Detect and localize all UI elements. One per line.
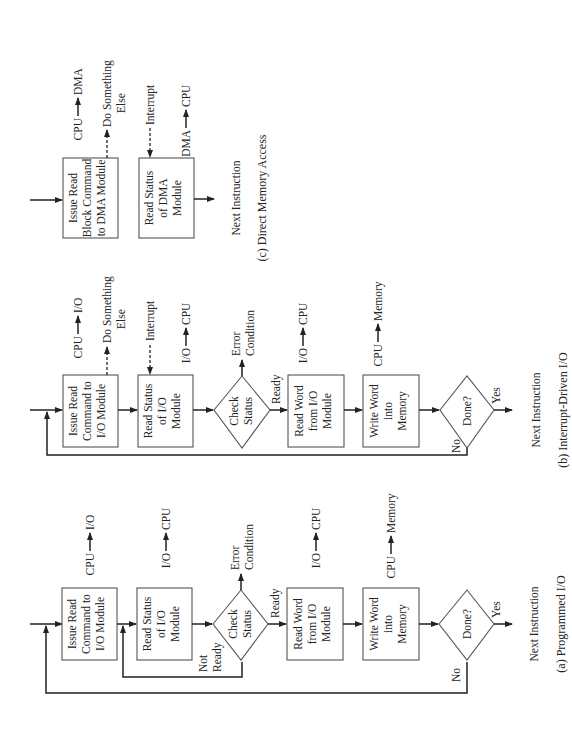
side-label-io-cpu-2: I/O CPU <box>297 302 309 363</box>
next-instruction-label: Next Instruction <box>530 372 542 447</box>
svg-text:(c) Direct Memory Access: (c) Direct Memory Access <box>255 134 269 261</box>
svg-text:Do Something: Do Something <box>101 60 114 127</box>
interrupt-label: Interrupt <box>144 300 157 341</box>
svg-text:Error: Error <box>230 332 242 356</box>
svg-text:I/O: I/O <box>72 298 84 313</box>
side-label-io-cpu: I/O CPU <box>160 507 172 568</box>
svg-text:Next Instruction: Next Instruction <box>528 586 540 661</box>
not-ready-label: Not Ready <box>197 642 224 672</box>
caption-interrupt-driven: (b) Interrupt-Driven I/O <box>556 352 570 468</box>
side-label-cpu-dma: CPU DMA <box>72 67 84 140</box>
ready-label: Ready <box>270 374 283 404</box>
svg-text:Ready: Ready <box>269 588 282 618</box>
diamond-text: Done? <box>461 609 473 639</box>
diamond-text: Done? <box>461 396 473 426</box>
svg-text:I/O: I/O <box>180 348 192 363</box>
box-text: Issue Read Command to I/O Module <box>67 381 107 441</box>
io-techniques-diagram: Issue Read Block Command to DMA Module C… <box>0 0 572 734</box>
svg-text:from I/O: from I/O <box>307 391 319 432</box>
error-condition-label: Error Condition <box>230 310 256 356</box>
svg-text:Memory: Memory <box>372 281 385 321</box>
svg-text:No: No <box>450 668 462 682</box>
yes-label: Yes <box>490 387 502 404</box>
svg-text:Status: Status <box>241 609 253 638</box>
svg-text:Read Word: Read Word <box>292 598 304 650</box>
svg-text:Yes: Yes <box>490 387 502 404</box>
svg-text:CPU: CPU <box>372 343 384 366</box>
svg-text:Not: Not <box>197 654 209 672</box>
next-instruction-label: Next Instruction <box>230 160 242 235</box>
svg-text:(b) Interrupt-Driven I/O: (b) Interrupt-Driven I/O <box>556 352 570 468</box>
side-label-io-cpu-2: I/O CPU <box>310 507 322 568</box>
svg-text:Interrupt: Interrupt <box>144 84 157 125</box>
svg-text:Module: Module <box>320 606 332 642</box>
svg-text:Do Something: Do Something <box>101 276 114 343</box>
svg-text:of DMA: of DMA <box>157 178 169 218</box>
interrupt-label: Interrupt <box>144 84 157 125</box>
svg-text:CPU: CPU <box>180 302 192 325</box>
svg-text:I/O: I/O <box>84 515 96 530</box>
svg-text:Else: Else <box>115 309 127 329</box>
yes-label: Yes <box>490 601 502 618</box>
svg-text:CPU: CPU <box>180 84 192 107</box>
svg-text:Read Status: Read Status <box>142 383 154 438</box>
svg-text:Read Status: Read Status <box>143 170 155 225</box>
svg-text:No: No <box>450 439 462 453</box>
svg-text:to DMA Module: to DMA Module <box>95 160 107 237</box>
svg-text:Next Instruction: Next Instruction <box>230 160 242 235</box>
svg-text:CPU: CPU <box>297 302 309 325</box>
side-label-cpu-io: CPU I/O <box>84 515 96 576</box>
panel-programmed-io: Issue Read Command to I/O Module CPU I/O… <box>30 493 568 693</box>
svg-text:Ready: Ready <box>270 374 283 404</box>
svg-text:of I/O: of I/O <box>156 397 168 425</box>
svg-text:Condition: Condition <box>243 524 255 570</box>
svg-text:CPU: CPU <box>72 335 84 358</box>
svg-text:Interrupt: Interrupt <box>144 300 157 341</box>
caption-dma: (c) Direct Memory Access <box>255 134 269 261</box>
svg-text:Write Word: Write Word <box>368 384 380 438</box>
svg-text:into: into <box>382 615 394 633</box>
ready-label: Ready <box>269 588 282 618</box>
panel-interrupt-driven: Issue Read Command to I/O Module CPU I/O… <box>30 276 570 468</box>
svg-text:I/O: I/O <box>310 553 322 568</box>
no-label: No <box>450 439 462 453</box>
svg-text:Module: Module <box>171 180 183 216</box>
svg-text:Block Command: Block Command <box>81 159 93 238</box>
svg-text:Module: Module <box>170 393 182 429</box>
svg-text:Issue Read: Issue Read <box>67 173 79 223</box>
svg-text:CPU: CPU <box>385 555 397 578</box>
svg-text:Read Status: Read Status <box>141 596 153 651</box>
svg-text:Error: Error <box>229 546 241 570</box>
svg-text:Next Instruction: Next Instruction <box>530 372 542 447</box>
do-something-else-label: Do Something Else <box>101 276 127 343</box>
svg-text:Done?: Done? <box>461 609 473 639</box>
svg-text:Issue Read: Issue Read <box>67 386 79 436</box>
side-label-cpu-io: CPU I/O <box>72 298 84 359</box>
error-condition-label: Error Condition <box>229 524 255 570</box>
svg-text:Memory: Memory <box>385 493 398 533</box>
svg-text:CPU: CPU <box>160 507 172 530</box>
side-label-dma-cpu: DMA CPU <box>180 84 192 157</box>
svg-text:I/O Module: I/O Module <box>94 597 106 651</box>
svg-text:Check: Check <box>228 396 240 426</box>
svg-text:Yes: Yes <box>490 601 502 618</box>
svg-text:I/O: I/O <box>160 553 172 568</box>
panel-dma: Issue Read Block Command to DMA Module C… <box>30 60 269 261</box>
svg-text:CPU: CPU <box>310 507 322 530</box>
caption-programmed-io: (a) Programmed I/O <box>554 575 568 673</box>
svg-text:Read Word: Read Word <box>293 385 305 437</box>
svg-text:CPU: CPU <box>72 117 84 140</box>
svg-text:Status: Status <box>242 396 254 425</box>
svg-text:DMA: DMA <box>72 67 84 95</box>
svg-text:I/O: I/O <box>297 348 309 363</box>
svg-text:Command to: Command to <box>81 381 93 441</box>
svg-text:Module: Module <box>321 393 333 429</box>
do-something-else-label: Do Something Else <box>101 60 127 127</box>
svg-text:Done?: Done? <box>461 396 473 426</box>
svg-text:Memory: Memory <box>396 391 409 431</box>
side-label-cpu-memory: CPU Memory <box>385 493 398 578</box>
svg-text:Memory: Memory <box>396 604 409 644</box>
svg-text:into: into <box>382 402 394 420</box>
svg-text:Condition: Condition <box>244 310 256 356</box>
box-text: Issue Read Command to I/O Module <box>66 594 106 654</box>
